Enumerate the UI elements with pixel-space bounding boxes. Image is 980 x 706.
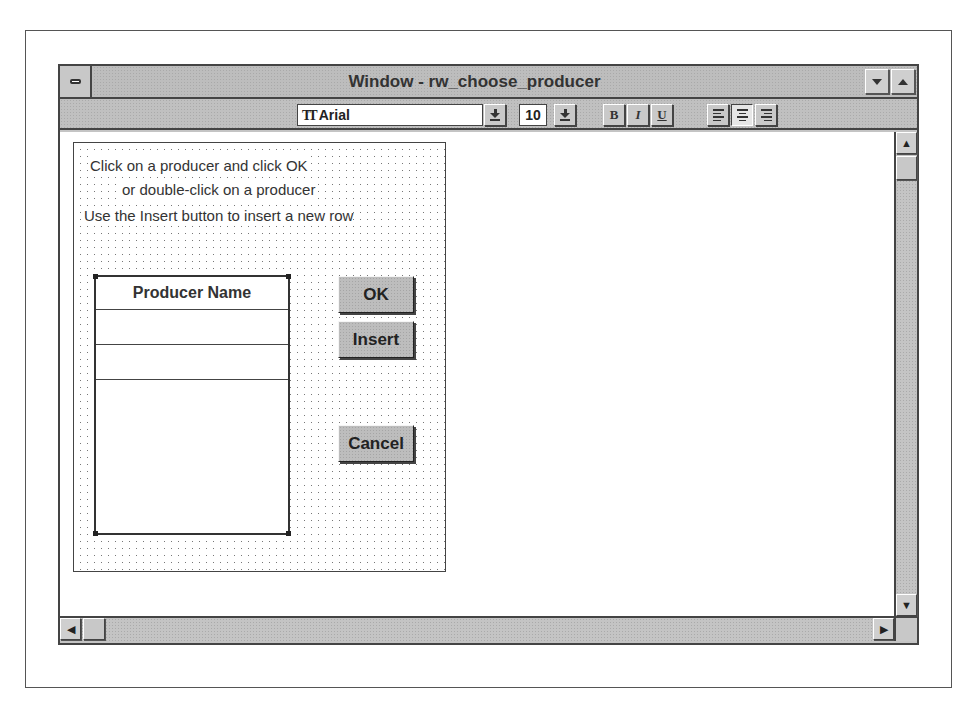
scroll-left-button[interactable]: ◀ [60, 618, 81, 640]
system-menu-button[interactable] [60, 66, 92, 97]
maximize-button[interactable] [891, 69, 915, 94]
instruction-text-1[interactable]: Click on a producer and click OK [90, 156, 308, 176]
arrow-down-icon: ▼ [901, 599, 912, 611]
cancel-button[interactable]: Cancel [338, 425, 414, 462]
scroll-right-button[interactable]: ▶ [873, 618, 894, 640]
underline-button[interactable]: U [651, 104, 673, 126]
painter-window: Window - rw_choose_producer TTArial 10 B… [58, 64, 919, 645]
insert-button[interactable]: Insert [338, 321, 414, 358]
font-size-dropdown-button[interactable] [554, 104, 576, 126]
font-name-field[interactable]: TTArial [297, 104, 483, 126]
scroll-up-button[interactable]: ▲ [896, 132, 917, 154]
ok-button[interactable]: OK [338, 276, 414, 313]
minimize-button[interactable] [865, 69, 889, 94]
scroll-down-button[interactable]: ▼ [896, 594, 917, 616]
align-left-icon [713, 109, 724, 121]
system-menu-icon [70, 79, 81, 84]
window-title: Window - rw_choose_producer [92, 66, 857, 97]
dropdown-arrow-icon [490, 109, 500, 121]
vertical-scroll-thumb[interactable] [896, 156, 917, 180]
horizontal-scroll-thumb[interactable] [83, 618, 105, 640]
maximize-icon [898, 79, 908, 85]
font-size-field[interactable]: 10 [519, 104, 547, 126]
canvas-area: Click on a producer and click OK or doub… [60, 132, 894, 616]
align-right-button[interactable] [755, 104, 777, 126]
arrow-right-icon: ▶ [880, 623, 888, 636]
resize-handle[interactable] [93, 531, 98, 536]
align-right-icon [761, 109, 772, 121]
align-center-button[interactable] [731, 104, 753, 126]
horizontal-scrollbar[interactable]: ◀ ▶ [60, 616, 894, 641]
resize-handle[interactable] [286, 274, 291, 279]
producer-list-datawindow[interactable]: Producer Name [94, 275, 290, 535]
datawindow-design-surface[interactable]: Click on a producer and click OK or doub… [73, 142, 446, 572]
table-row[interactable] [96, 310, 288, 345]
resize-handle[interactable] [93, 274, 98, 279]
instruction-text-2[interactable]: or double-click on a producer [122, 180, 315, 200]
title-bar: Window - rw_choose_producer [60, 66, 917, 99]
scrollbar-corner [894, 616, 917, 641]
arrow-left-icon: ◀ [67, 623, 75, 636]
column-header-producer-name: Producer Name [96, 277, 288, 310]
bold-button[interactable]: B [603, 104, 625, 126]
align-center-icon [737, 109, 748, 121]
style-toolbar: TTArial 10 B I U [60, 99, 917, 130]
dropdown-arrow-icon [560, 109, 570, 121]
arrow-up-icon: ▲ [901, 137, 912, 149]
truetype-icon: TT [302, 108, 315, 123]
table-row[interactable] [96, 345, 288, 380]
resize-handle[interactable] [286, 531, 291, 536]
vertical-scrollbar[interactable]: ▲ ▼ [894, 132, 917, 616]
font-name-dropdown-button[interactable] [484, 104, 506, 126]
font-name-value: Arial [319, 107, 350, 123]
instruction-text-3[interactable]: Use the Insert button to insert a new ro… [84, 206, 353, 226]
align-left-button[interactable] [707, 104, 729, 126]
italic-button[interactable]: I [627, 104, 649, 126]
minimize-icon [872, 79, 882, 85]
